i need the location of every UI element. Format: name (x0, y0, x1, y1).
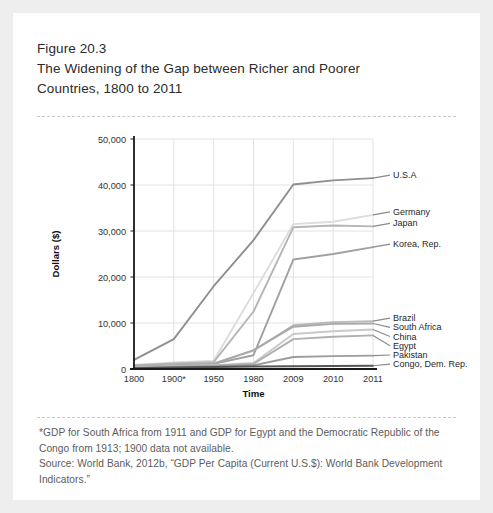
footnote-line-2: Congo from 1913; 1900 data not available… (39, 441, 453, 457)
y-axis-title: Dollars ($) (50, 231, 61, 278)
series-label-leader-line (373, 175, 390, 178)
series-end-label: Korea, Rep. (393, 239, 441, 249)
y-tick-label: 50,000 (98, 135, 126, 145)
series-label-leader-line (373, 223, 390, 226)
series-end-label: Germany (393, 207, 431, 217)
y-tick-label: 40,000 (98, 181, 126, 191)
x-tick-label: 2011 (363, 374, 383, 384)
y-axis-tick-labels: 010,00020,00030,00040,00050,000 (98, 135, 134, 375)
x-tick-label: 1800 (124, 374, 144, 384)
x-axis-tick-labels: 18001900*19501980200920102011 (124, 374, 383, 384)
figure-number: Figure 20.3 (37, 39, 447, 59)
y-tick-label: 20,000 (98, 273, 126, 283)
x-tick-label: 2010 (323, 374, 343, 384)
series-label-leader-line (373, 244, 390, 247)
divider-top (37, 116, 456, 117)
x-tick-label: 1980 (243, 374, 263, 384)
divider-bottom (37, 417, 456, 418)
figure-title-line2: Countries, 1800 to 2011 (37, 79, 447, 99)
gdp-line-chart: 010,00020,00030,00040,00050,000 18001900… (13, 123, 480, 415)
series-end-labels: U.S.AGermanyJapanKorea, Rep.BrazilSouth … (373, 170, 468, 369)
y-tick-label: 10,000 (98, 319, 126, 329)
series-label-leader-line (373, 364, 390, 366)
y-tick-label: 30,000 (98, 227, 126, 237)
x-tick-label: 2009 (283, 374, 303, 384)
chart-container: 010,00020,00030,00040,00050,000 18001900… (13, 123, 480, 415)
series-end-label: U.S.A (393, 170, 417, 180)
series-label-leader-line (373, 212, 390, 215)
series-end-label: Congo, Dem. Rep. (393, 359, 468, 369)
series-label-leader-line (373, 323, 390, 327)
figure-card: Figure 20.3 The Widening of the Gap betw… (13, 13, 480, 500)
figure-header: Figure 20.3 The Widening of the Gap betw… (37, 39, 447, 99)
footnote-line-4: Indicators.” (39, 472, 453, 488)
series-label-leader-line (373, 335, 390, 345)
series-label-leader-line (373, 355, 390, 356)
footnote-line-1: *GDP for South Africa from 1911 and GDP … (39, 425, 453, 441)
series-label-leader-line (373, 318, 390, 321)
series-label-leader-line (373, 329, 390, 336)
x-tick-label: 1900* (162, 374, 186, 384)
axis-titles: TimeDollars ($) (50, 231, 265, 399)
series-end-label: Japan (393, 218, 418, 228)
footnote-block: *GDP for South Africa from 1911 and GDP … (39, 425, 453, 487)
x-tick-label: 1950 (203, 374, 223, 384)
footnote-line-3: Source: World Bank, 2012b, “GDP Per Capi… (39, 456, 453, 472)
x-axis-title: Time (242, 388, 264, 399)
figure-title-line1: The Widening of the Gap between Richer a… (37, 59, 447, 79)
